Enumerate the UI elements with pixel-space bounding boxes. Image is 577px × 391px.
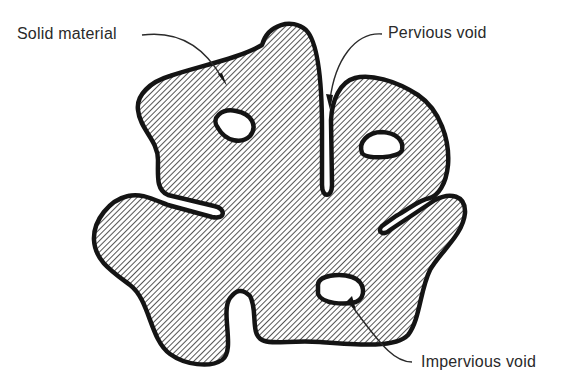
label-impervious-void: Impervious void bbox=[421, 353, 536, 371]
particle-diagram bbox=[0, 0, 577, 391]
label-solid-material: Solid material bbox=[17, 25, 117, 43]
solid-material-body bbox=[94, 24, 465, 365]
label-pervious-void: Pervious void bbox=[388, 24, 487, 42]
impervious-void-right bbox=[361, 132, 402, 157]
impervious-void-bottom bbox=[318, 275, 363, 303]
